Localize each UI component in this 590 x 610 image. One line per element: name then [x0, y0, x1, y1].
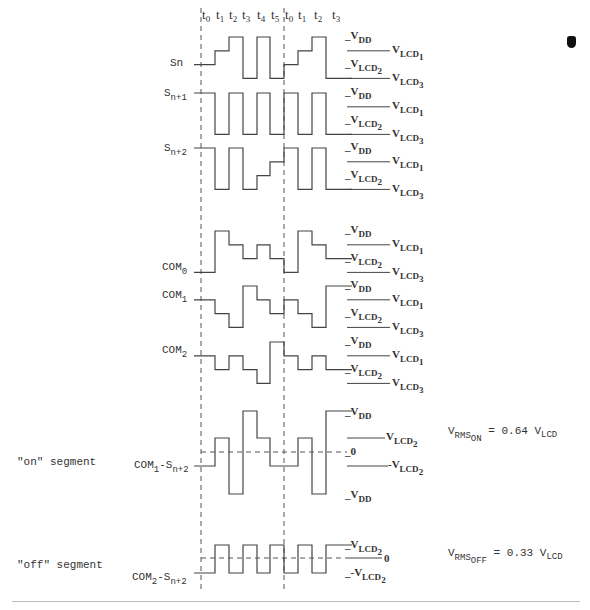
row-label-sn1: Sn+1: [164, 87, 187, 103]
com2-level-vlcd2: _VLCD2: [344, 362, 382, 381]
on-level-neg-vlcd2: -VLCD2: [388, 458, 424, 477]
on-segment-trace-label: COM1-Sn+2: [134, 459, 189, 475]
time-label-t0: t0: [202, 7, 211, 24]
sn-level-vlcd3: VLCD3: [392, 71, 424, 90]
time-label-t2: t2: [229, 7, 237, 24]
waveform-sn2: [194, 148, 352, 189]
vrms-on-equation: VRMSON = 0.64 VLCD: [448, 425, 557, 444]
waveform-off-segment: [194, 545, 352, 573]
row-label-com0: COM0: [162, 261, 187, 277]
on-segment-label: "on" segment: [17, 456, 96, 468]
sn-level-vlcd2: _VLCD2: [344, 57, 382, 76]
caption-divider: [12, 601, 580, 602]
com1-level-vlcd3: VLCD3: [392, 320, 424, 339]
sn1-level-vlcd1: VLCD1: [392, 99, 424, 118]
com0-level-vlcd3: VLCD3: [392, 265, 424, 284]
waveform-sn1: [194, 93, 352, 134]
com2-level-vdd: _VDD: [344, 334, 372, 350]
sn2-level-vlcd2: _VLCD2: [344, 168, 382, 187]
waveform-com1: [194, 286, 352, 327]
off-level-vlcd2: _VLCD2: [344, 538, 382, 557]
on-level-vlcd2: VLCD2: [386, 430, 418, 449]
sn2-level-vlcd1: VLCD1: [392, 154, 424, 173]
com2-level-vlcd1: VLCD1: [392, 348, 424, 367]
com2-level-vlcd3: VLCD3: [392, 376, 424, 395]
com0-level-vdd: _VDD: [344, 223, 372, 239]
lcd-waveform-diagram: t0 t1 t2 t3 t4 t5 t0 t1 t2 t3 Sn Sn+1 Sn…: [0, 0, 590, 610]
figure-caption: [12, 606, 572, 610]
off-level-zero: 0: [384, 552, 390, 564]
com0-level-vlcd2: _VLCD2: [344, 251, 382, 270]
sn1-level-vlcd3: VLCD3: [392, 127, 424, 146]
sn1-level-vlcd2: _VLCD2: [344, 113, 382, 132]
time-label-t5: t5: [271, 7, 280, 24]
off-level-neg-vlcd2: _-VLCD2: [344, 566, 386, 585]
on-level-neg-vdd: _VDD: [344, 488, 372, 504]
sn1-level-vdd: _VDD: [344, 85, 372, 101]
time-label-t1b: t1: [298, 7, 306, 24]
waveform-sn: [194, 37, 352, 78]
time-label-t3: t3: [242, 7, 251, 24]
off-segment-trace-label: COM2-Sn+2: [132, 571, 187, 587]
time-label-t2b: t2: [314, 7, 322, 24]
sn-level-vdd: _VDD: [344, 29, 372, 45]
level-labels: _VDDVLCD1_VLCD2VLCD3_VDDVLCD1_VLCD2VLCD3…: [344, 29, 424, 395]
row-label-sn: Sn: [170, 57, 183, 69]
on-level-vdd: _VDD: [344, 405, 372, 421]
off-segment-label: "off" segment: [17, 559, 103, 571]
ink-blot-mark: [567, 36, 576, 48]
sn-level-vlcd1: VLCD1: [392, 43, 424, 62]
row-label-com2: COM2: [162, 344, 187, 360]
com1-level-vlcd2: _VLCD2: [344, 306, 382, 325]
time-axis-labels: t0 t1 t2 t3 t4 t5 t0 t1 t2 t3: [202, 7, 341, 24]
on-level-zero: _0: [344, 445, 357, 457]
com0-level-vlcd1: VLCD1: [392, 237, 424, 256]
com1-level-vdd: _VDD: [344, 278, 372, 294]
waveform-com2: [194, 342, 352, 383]
time-label-t0b: t0: [285, 7, 294, 24]
row-label-sn2: Sn+2: [164, 142, 187, 158]
waveform-com0: [194, 231, 352, 272]
sn2-level-vdd: _VDD: [344, 140, 372, 156]
com1-level-vlcd1: VLCD1: [392, 292, 424, 311]
vrms-off-equation: VRMSOFF = 0.33 VLCD: [448, 547, 563, 566]
row-label-com1: COM1: [162, 289, 187, 305]
time-label-t4: t4: [257, 7, 266, 24]
sn2-level-vlcd3: VLCD3: [392, 182, 424, 201]
time-label-t3b: t3: [332, 7, 341, 24]
time-label-t1: t1: [216, 7, 224, 24]
waveforms: [194, 37, 352, 573]
